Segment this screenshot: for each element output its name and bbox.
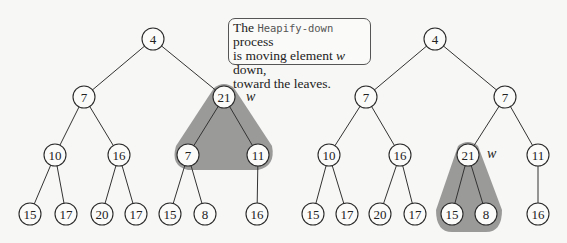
heap-node: 8	[194, 203, 216, 225]
node-value: 17	[60, 207, 74, 222]
callout-text: The	[233, 20, 257, 35]
heap-node: 17	[55, 203, 77, 225]
node-value: 15	[307, 207, 320, 222]
node-value: 16	[532, 207, 546, 222]
heap-node: 16	[246, 203, 268, 225]
callout-var: w	[336, 48, 345, 63]
node-value: 20	[96, 207, 109, 222]
tree-edge	[435, 39, 505, 97]
node-value: 15	[24, 207, 37, 222]
heap-node: 21	[457, 144, 479, 166]
node-value: 7	[502, 90, 509, 105]
heap-node: 8	[475, 203, 497, 225]
heap-node: 7	[177, 144, 199, 166]
heap-node: 11	[247, 144, 269, 166]
node-value: 8	[483, 207, 490, 222]
tree-edge	[84, 39, 153, 97]
node-value: 11	[532, 148, 545, 163]
node-value: 21	[218, 90, 231, 105]
heap-node: 17	[336, 203, 358, 225]
heap-node: 20	[91, 203, 113, 225]
heap-node: 15	[302, 203, 324, 225]
node-value: 7	[363, 90, 370, 105]
node-value: 17	[130, 207, 144, 222]
node-value: 11	[252, 148, 265, 163]
heap-node: 16	[389, 144, 411, 166]
heap-node: 15	[19, 203, 41, 225]
node-value: 8	[202, 207, 209, 222]
callout-text: process	[233, 34, 274, 49]
heap-node: 10	[318, 144, 340, 166]
node-value: 16	[113, 148, 127, 163]
tree-edge	[153, 39, 224, 97]
node-value: 17	[409, 207, 423, 222]
tree-edge	[366, 39, 435, 97]
heap-node: 17	[404, 203, 426, 225]
heap-node: 4	[142, 28, 164, 50]
heap-node: 10	[44, 144, 66, 166]
heap-node: 7	[494, 86, 516, 108]
callout-code: Heapify-down	[257, 22, 333, 34]
node-value: 4	[432, 32, 439, 47]
node-value: 15	[446, 207, 459, 222]
heap-node: 17	[125, 203, 147, 225]
heap-node: 15	[441, 203, 463, 225]
heap-node: 4	[424, 28, 446, 50]
heap-node: 15	[159, 203, 181, 225]
node-value: 16	[394, 148, 408, 163]
node-value: 20	[374, 207, 387, 222]
heap-node: 16	[527, 203, 549, 225]
heap-node: 20	[369, 203, 391, 225]
callout-text: is moving element	[233, 48, 336, 63]
heap-node: 7	[355, 86, 377, 108]
node-value: 10	[323, 148, 336, 163]
heap-node: 11	[527, 144, 549, 166]
heap-node: 21	[213, 86, 235, 108]
callout-text: down,	[233, 62, 266, 77]
callout-text: toward the leaves.	[233, 76, 331, 91]
node-value: 7	[81, 90, 88, 105]
node-value: 17	[341, 207, 355, 222]
w-label-after: w	[487, 146, 497, 161]
w-label-before: w	[246, 89, 256, 104]
node-value: 21	[462, 148, 475, 163]
node-value: 16	[251, 207, 265, 222]
node-value: 10	[49, 148, 62, 163]
heap-node: 16	[108, 144, 130, 166]
node-value: 7	[185, 148, 192, 163]
node-value: 4	[150, 32, 157, 47]
callout-box: The Heapify-down process is moving eleme…	[228, 18, 371, 65]
node-value: 15	[164, 207, 177, 222]
heap-node: 7	[73, 86, 95, 108]
